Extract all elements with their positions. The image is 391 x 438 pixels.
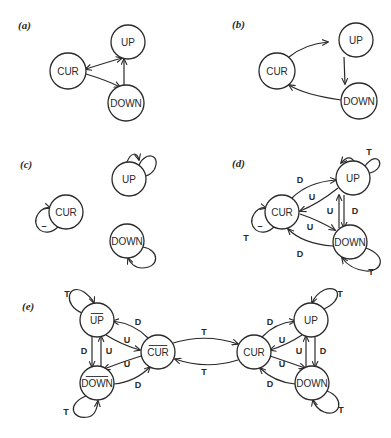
state-node-up: UP — [112, 162, 146, 196]
edge-cur-to-curbar — [175, 359, 238, 365]
state-label: UP — [122, 174, 136, 185]
edge-down-to-cur — [289, 85, 341, 100]
panel-label: (a) — [18, 19, 31, 32]
state-label: CUR — [266, 66, 288, 77]
state-node-up: UP — [336, 161, 370, 195]
edge-label: U — [106, 346, 113, 356]
edge-cur-to-down — [270, 356, 305, 368]
edge-cur-to-down — [300, 214, 335, 230]
state-node-cur: CUR — [50, 53, 86, 89]
state-label: UP — [304, 315, 318, 326]
edges — [289, 42, 345, 100]
edge-label: U — [279, 335, 286, 345]
state-label: DOWN — [296, 378, 328, 389]
state-node-upbar: UP — [80, 303, 114, 337]
edge-downbar-to-curbar — [114, 367, 150, 384]
panels-root: (a)CURUPDOWN(b)CURUPDOWN(c)–CURUPDOWN(d)… — [18, 18, 380, 417]
edge-cur-to-up — [86, 58, 122, 69]
state-node-down: DOWN — [295, 366, 329, 400]
edge-label: T — [368, 267, 374, 277]
state-node-down: DOWN — [341, 83, 377, 119]
edge-label: D — [267, 379, 274, 389]
edge-label: U — [307, 222, 314, 232]
panel-label: (b) — [232, 18, 245, 31]
state-label: UP — [346, 173, 360, 184]
state-label: UP — [121, 37, 135, 48]
edge-label: D — [135, 380, 142, 390]
state-label: DOWN — [81, 378, 113, 389]
state-label: CUR — [55, 207, 77, 218]
state-label: CUR — [243, 347, 265, 358]
panel-label: (e) — [22, 300, 34, 313]
state-label: UP — [349, 35, 363, 46]
edge-label: D — [267, 317, 274, 327]
panel-c: (c)–CURUPDOWN — [20, 154, 156, 268]
state-node-down: DOWN — [110, 224, 144, 258]
edge-down-to-cur — [260, 368, 295, 384]
state-node-curbar: CUR — [141, 335, 175, 369]
edge-label: U — [309, 192, 316, 202]
panel-d: (d)DUUDUDTT–TCURUPDOWN — [232, 147, 380, 277]
edge-label: D — [135, 317, 142, 327]
edge-label: T — [338, 405, 344, 415]
panel-e: (e)DUUDDUTTTTDUUDUDTTUPDOWNCURCURUPDOWN — [22, 289, 344, 418]
edge-label: T — [201, 327, 207, 337]
state-label: CUR — [271, 207, 293, 218]
edge-curbar-to-downbar — [104, 356, 141, 369]
edge-label: U — [124, 335, 131, 345]
state-label: CUR — [147, 347, 169, 358]
panel-a: (a)CURUPDOWN — [18, 19, 145, 121]
edge-label: U — [327, 206, 334, 216]
state-label: DOWN — [111, 236, 143, 247]
state-node-down: DOWN — [108, 85, 144, 121]
state-node-cur: CUR — [237, 335, 271, 369]
edge-curbar-to-cur — [173, 338, 238, 344]
edge-label: D — [297, 249, 304, 259]
edge-label: T — [63, 407, 69, 417]
state-node-up: UP — [111, 25, 145, 59]
edge-label: D — [352, 206, 359, 216]
state-diagram-figure: (a)CURUPDOWN(b)CURUPDOWN(c)–CURUPDOWN(d)… — [0, 0, 391, 438]
edge-curbar-to-upbar — [113, 321, 148, 338]
edge-cur-to-up — [289, 42, 328, 57]
edge-label: – — [41, 221, 46, 231]
state-node-cur: CUR — [259, 53, 295, 89]
state-node-cur: CUR — [265, 195, 299, 229]
edge-label: U — [279, 359, 286, 369]
edge-label: D — [297, 175, 304, 185]
edge-label: U — [124, 359, 131, 369]
edge-label: T — [64, 289, 70, 299]
edge-up-to-up — [127, 154, 139, 162]
panel-label: (c) — [20, 158, 32, 171]
panel-label: (d) — [232, 157, 245, 170]
state-label: UP — [90, 315, 104, 326]
edge-cur-to-down — [86, 74, 120, 87]
edge-up-to-down — [344, 57, 345, 84]
edge-label: D — [320, 346, 327, 356]
panel-b: (b)CURUPDOWN — [232, 18, 377, 119]
edges — [86, 58, 124, 87]
state-node-down: DOWN — [333, 225, 367, 259]
state-label: DOWN — [334, 237, 366, 248]
state-node-downbar: DOWN — [80, 366, 114, 400]
edge-label: T — [243, 233, 249, 243]
state-label: DOWN — [343, 96, 375, 107]
state-label: CUR — [57, 66, 79, 77]
state-label: DOWN — [110, 98, 142, 109]
edge-label: U — [296, 346, 303, 356]
edge-label: T — [366, 147, 372, 157]
edge-label: T — [337, 289, 343, 299]
edge-label: T — [201, 367, 207, 377]
edge-label: – — [257, 221, 262, 231]
state-node-cur: CUR — [49, 195, 83, 229]
edge-label: D — [81, 346, 88, 356]
state-node-up: UP — [339, 23, 373, 57]
state-node-up: UP — [294, 303, 328, 337]
